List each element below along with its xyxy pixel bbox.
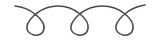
loop-divider [0,0,153,52]
curly-loop-line-icon [0,0,153,52]
loop-stroke [15,5,145,35]
